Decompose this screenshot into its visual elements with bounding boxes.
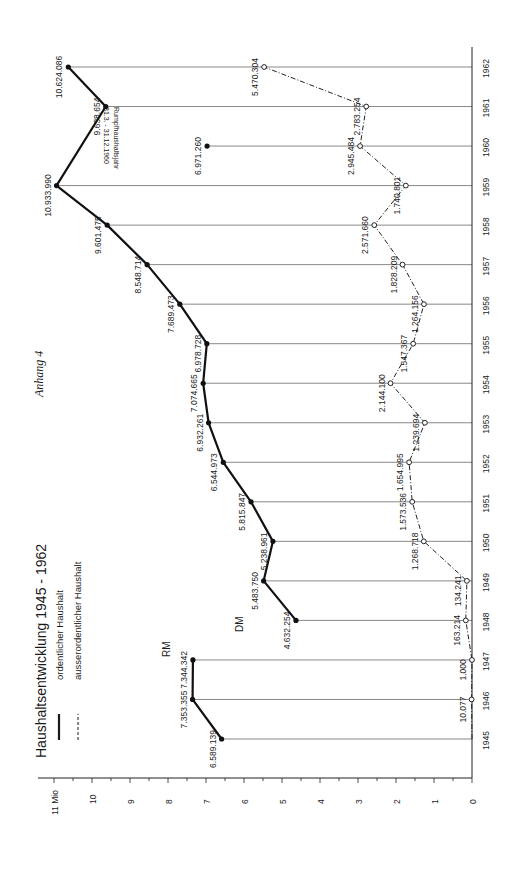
point-ordentlich	[201, 381, 206, 386]
year-label: 1962	[481, 59, 491, 78]
label-ausserordentlich: 1.000	[458, 659, 468, 681]
label-ausserordentlich: 2.945.484	[346, 137, 356, 175]
point-ausserordentlich	[372, 223, 377, 228]
point-ordentlich	[204, 341, 209, 346]
point-ausserordentlich	[358, 144, 363, 149]
annotation-line2: 31.3. - 31.12.1960	[103, 107, 110, 164]
point-ausserordentlich	[469, 697, 474, 702]
value-tick-label: 9	[126, 799, 136, 804]
point-ordentlich	[248, 499, 253, 504]
point-ausserordentlich	[411, 341, 416, 346]
year-label: 1955	[481, 336, 491, 355]
point-ausserordentlich	[400, 262, 405, 267]
currency-label-dm: DM	[234, 616, 245, 632]
point-ordentlich	[293, 618, 298, 623]
point-ausserordentlich	[422, 302, 427, 307]
point-ordentlich	[177, 302, 182, 307]
label-ausserordentlich: 1.740.801	[392, 176, 402, 214]
label-ordentlich: 10.624.086	[54, 55, 64, 98]
year-label: 1957	[481, 256, 491, 275]
value-tick-label: 2	[392, 799, 402, 804]
year-label: 1958	[481, 217, 491, 236]
value-tick-label: 4	[316, 799, 326, 804]
value-tick-label: 11 Mio	[50, 790, 60, 815]
label-ordentlich: 8.548.714	[133, 255, 143, 293]
year-label: 1946	[481, 691, 491, 710]
label-ordentlich: 6.971.260	[193, 137, 203, 175]
year-label: 1948	[481, 612, 491, 631]
label-ordentlich: 5.238.961	[259, 532, 269, 570]
value-tick-label: 6	[240, 799, 250, 804]
point-ordentlich	[221, 460, 226, 465]
label-ausserordentlich: 2.144.100	[377, 374, 387, 412]
value-tick-label: 7	[202, 799, 212, 804]
value-tick-label: 5	[278, 799, 288, 804]
year-label: 1950	[481, 533, 491, 552]
label-ordentlich: 10.933.990	[43, 174, 53, 217]
year-label: 1959	[481, 177, 491, 196]
label-ausserordentlich: 1.268.718	[410, 532, 420, 570]
point-ausserordentlich	[464, 578, 469, 583]
label-ausserordentlich: 163.214	[452, 615, 462, 646]
point-ausserordentlich	[410, 499, 415, 504]
label-ordentlich: 6.544.973	[209, 453, 219, 491]
label-ausserordentlich: 2.783.254	[352, 97, 362, 135]
year-label: 1956	[481, 296, 491, 315]
value-tick-label: 8	[164, 799, 174, 804]
point-ordentlich	[66, 64, 71, 69]
point-ordentlich	[206, 420, 211, 425]
label-ausserordentlich: 1.573.536	[398, 493, 408, 531]
label-ordentlich: 9.638.654	[92, 97, 102, 135]
label-ausserordentlich: 134.241	[453, 575, 463, 606]
year-label: 1949	[481, 573, 491, 592]
point-ausserordentlich	[407, 460, 412, 465]
year-gridlines: 1945194619471948194919501951195219531954…	[57, 59, 491, 750]
point-ordentlich	[145, 262, 150, 267]
page-label: Anhang 4	[32, 351, 46, 398]
currency-label-rm: RM	[161, 641, 172, 657]
chart-title: Haushaltsentwicklung 1945 - 1962	[33, 544, 49, 758]
point-ordentlich	[190, 657, 195, 662]
label-ausserordentlich: 10.077	[458, 696, 468, 722]
chart-svg: 1945194619471948194919501951195219531954…	[0, 0, 518, 879]
label-ordentlich: 4.632.254	[282, 611, 292, 649]
legend-label-ordentlich: ordentlicher Haushalt	[54, 590, 65, 680]
label-ordentlich: 5.483.750	[250, 572, 260, 610]
label-ausserordentlich: 1.239.694	[411, 414, 421, 452]
label-ausserordentlich: 2.571.660	[360, 216, 370, 254]
point-ausserordentlich	[422, 420, 427, 425]
label-ordentlich: 5.815.847	[237, 493, 247, 531]
label-ausserordentlich: 1.264.156	[410, 295, 420, 333]
year-label: 1954	[481, 375, 491, 394]
point-ordentlich	[261, 578, 266, 583]
year-label: 1960	[481, 138, 491, 157]
label-ordentlich: 7.344.342	[179, 651, 189, 689]
label-ordentlich: 7.074.665	[189, 374, 199, 412]
budget-chart: 1945194619471948194919501951195219531954…	[0, 0, 518, 879]
point-ausserordentlich	[403, 183, 408, 188]
point-ordentlich	[270, 539, 275, 544]
value-tick-label: 0	[468, 799, 478, 804]
series-ausserordentlich-line	[264, 67, 472, 739]
point-ordentlich	[204, 143, 209, 148]
value-tick-label: 3	[354, 799, 364, 804]
label-ordentlich: 6.589.139	[208, 730, 218, 768]
label-ordentlich: 6.978.728	[193, 335, 203, 373]
label-ausserordentlich: 1.828.209	[389, 255, 399, 293]
label-ordentlich: 6.932.261	[195, 414, 205, 452]
point-ausserordentlich	[262, 65, 267, 70]
point-ordentlich	[219, 736, 224, 741]
point-ordentlich	[190, 697, 195, 702]
label-ausserordentlich: 1.547.367	[399, 335, 409, 373]
year-label: 1947	[481, 652, 491, 671]
label-ordentlich: 9.601.475	[93, 216, 103, 254]
legend-label-ausserordentlich: ausserordentlicher Haushalt	[72, 561, 83, 680]
year-label: 1945	[481, 731, 491, 750]
label-ausserordentlich: 1.654.995	[395, 453, 405, 491]
point-ausserordentlich	[421, 539, 426, 544]
point-ordentlich	[105, 223, 110, 228]
value-tick-label: 1	[430, 799, 440, 804]
value-tick-label: 10	[88, 794, 98, 804]
label-ausserordentlich: 5.470.304	[250, 58, 260, 96]
year-label: 1953	[481, 415, 491, 434]
